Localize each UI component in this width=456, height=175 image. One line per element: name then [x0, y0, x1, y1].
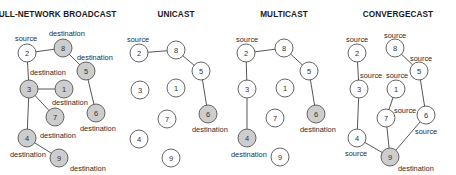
node-7: 7destination	[40, 108, 76, 140]
node-4: 4destination	[231, 129, 267, 159]
node-number: 5	[84, 67, 88, 76]
node-number: 8	[174, 46, 178, 55]
node-role-label: destination	[40, 131, 76, 140]
node-number: 3	[138, 86, 142, 95]
node-2: 2source	[346, 35, 368, 62]
node-role-label: destination	[398, 164, 434, 173]
node-4: 4	[130, 130, 148, 148]
node-5: 5	[192, 62, 210, 80]
node-role-label: source	[345, 149, 367, 158]
node-number: 7	[273, 114, 277, 123]
node-2: 2source	[236, 35, 258, 62]
node-5: 5destination	[77, 53, 113, 80]
node-6: 6destination	[80, 104, 116, 133]
node-number: 5	[199, 67, 203, 76]
node-8: 8	[167, 41, 185, 59]
node-role-label: destination	[300, 125, 336, 134]
node-9: 9	[162, 149, 180, 167]
node-3: 3	[131, 81, 149, 99]
node-role-label: source	[127, 35, 149, 44]
node-3: 3source	[350, 71, 382, 98]
panel-unicast: 2source853176destination49	[127, 35, 228, 167]
node-7: 7source	[377, 106, 416, 127]
node-number: 9	[57, 154, 61, 163]
node-role-label: destination	[10, 150, 46, 159]
node-number: 6	[314, 110, 318, 119]
node-role-label: destination	[80, 124, 116, 133]
node-role-label: destination	[231, 150, 267, 159]
node-role-label: source	[384, 31, 406, 40]
node-role-label: source	[346, 35, 368, 44]
node-number: 8	[61, 44, 65, 53]
node-role-label: destination	[52, 98, 88, 107]
node-number: 4	[245, 134, 249, 143]
node-number: 6	[94, 109, 98, 118]
node-number: 1	[283, 84, 287, 93]
node-number: 1	[174, 84, 178, 93]
node-number: 1	[62, 85, 66, 94]
node-number: 7	[165, 115, 169, 124]
node-9: 9	[271, 148, 289, 166]
node-5: 5source	[410, 54, 432, 80]
node-role-label: destination	[77, 53, 113, 62]
node-role-label: destination	[49, 29, 85, 38]
node-number: 9	[169, 154, 173, 163]
panel-convergecast: 2source8source5source3source1source7sour…	[345, 31, 437, 173]
node-1: 1destination	[52, 80, 88, 107]
node-number: 6	[424, 111, 428, 120]
node-role-label: source	[360, 71, 382, 80]
node-role-label: source	[386, 71, 408, 80]
node-3: 3	[238, 80, 256, 98]
node-number: 7	[384, 114, 388, 123]
node-number: 3	[27, 85, 31, 94]
node-number: 2	[137, 49, 141, 58]
node-number: 5	[417, 67, 421, 76]
node-number: 8	[393, 44, 397, 53]
node-6: 6destination	[300, 105, 336, 134]
node-8: 8	[275, 39, 293, 57]
node-role-label: destination	[192, 125, 228, 134]
node-role-label: destination	[70, 164, 106, 173]
node-7: 7	[158, 110, 176, 128]
network-diagram: 2source8destination5destination3destinat…	[0, 0, 456, 175]
node-number: 7	[53, 113, 57, 122]
panel-full-network-broadcast: 2source8destination5destination3destinat…	[10, 29, 116, 173]
node-number: 9	[388, 153, 392, 162]
node-4: 4source	[345, 129, 367, 158]
node-5: 5	[300, 62, 318, 80]
node-1: 1	[167, 79, 185, 97]
node-6: 6source	[415, 106, 437, 136]
node-role-label: source	[410, 54, 432, 63]
node-6: 6destination	[192, 105, 228, 134]
node-1: 1source	[386, 71, 408, 98]
node-number: 2	[25, 49, 29, 58]
node-number: 9	[278, 153, 282, 162]
node-9: 9destination	[381, 148, 434, 173]
node-number: 4	[355, 134, 359, 143]
node-7: 7	[266, 109, 284, 127]
node-number: 3	[245, 85, 249, 94]
panel-multicast: 2source853176destination4destination9	[231, 35, 336, 166]
node-number: 4	[137, 135, 141, 144]
node-role-label: source	[394, 106, 416, 115]
node-number: 2	[244, 49, 248, 58]
node-role-label: source	[415, 127, 437, 136]
node-number: 6	[206, 110, 210, 119]
node-number: 2	[355, 49, 359, 58]
node-2: 2source	[127, 35, 149, 62]
node-number: 1	[394, 85, 398, 94]
node-2: 2source	[15, 34, 37, 62]
node-number: 8	[282, 44, 286, 53]
node-number: 5	[307, 67, 311, 76]
node-8: 8source	[384, 31, 406, 57]
node-number: 4	[25, 134, 29, 143]
node-role-label: source	[236, 35, 258, 44]
node-role-label: destination	[30, 68, 66, 77]
node-number: 3	[357, 85, 361, 94]
node-9: 9destination	[50, 149, 106, 173]
node-role-label: source	[15, 34, 37, 43]
node-1: 1	[276, 79, 294, 97]
